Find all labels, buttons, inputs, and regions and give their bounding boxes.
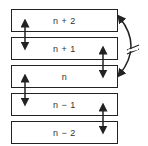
curved-double-arrow-icon — [120, 18, 131, 74]
connections-overlay — [0, 0, 148, 146]
break-marks-icon — [127, 45, 139, 54]
